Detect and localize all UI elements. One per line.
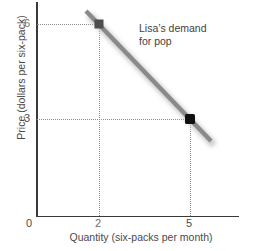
demand-curve-svg bbox=[0, 0, 255, 251]
demand-curve-annotation: Lisa’s demand for pop bbox=[139, 22, 207, 48]
annotation-line-1: Lisa’s demand bbox=[139, 22, 207, 35]
annotation-line-2: for pop bbox=[139, 35, 207, 48]
x-tick-label-5: 5 bbox=[186, 218, 192, 229]
guide-line-quantity-5 bbox=[190, 119, 191, 216]
origin-label: 0 bbox=[26, 218, 32, 229]
x-axis-title: Quantity (six-packs per month) bbox=[36, 232, 246, 243]
y-axis-title: Price (dollars per six-pack) bbox=[16, 5, 27, 150]
guide-line-quantity-2 bbox=[99, 24, 100, 216]
x-axis-line bbox=[36, 216, 239, 218]
y-axis-line bbox=[36, 2, 38, 217]
demand-curve-chart: 6 3 0 2 5 Price (dollars per six-pack) Q… bbox=[0, 0, 255, 251]
guide-line-price-6 bbox=[37, 24, 99, 25]
guide-line-price-3 bbox=[37, 119, 190, 120]
x-tick-label-2: 2 bbox=[95, 218, 101, 229]
